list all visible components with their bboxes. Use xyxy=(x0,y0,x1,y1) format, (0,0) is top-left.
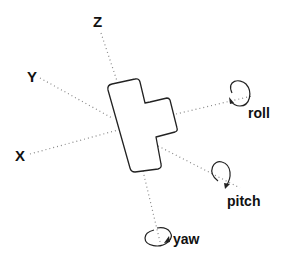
x-axis-line xyxy=(30,130,118,154)
z-axis-line xyxy=(101,33,118,84)
roll-axis-line xyxy=(176,96,252,114)
yaw-rotation-icon xyxy=(145,228,171,246)
pitch-label: pitch xyxy=(227,193,260,209)
yaw-label: yaw xyxy=(173,231,200,247)
z-axis-label: Z xyxy=(93,13,102,30)
y-axis-line xyxy=(40,78,112,118)
y-axis-label: Y xyxy=(27,68,37,85)
axes-diagram: Z Y X roll pitch yaw xyxy=(0,0,282,260)
x-axis-label: X xyxy=(15,147,25,164)
pitch-axis-line xyxy=(158,146,240,188)
object-body xyxy=(108,79,177,172)
roll-rotation-icon xyxy=(229,81,250,106)
pitch-rotation-icon xyxy=(212,162,230,189)
roll-label: roll xyxy=(248,105,270,121)
